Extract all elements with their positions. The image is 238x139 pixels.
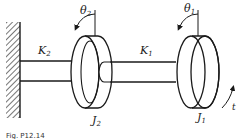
diagram-canvas: θ2 θ1 K2 K1 J2 J1 t Fig. P12.14 <box>0 0 238 139</box>
k1-label: K1 <box>139 44 153 58</box>
theta2-label: θ2 <box>80 4 92 18</box>
k2-label: K2 <box>37 44 51 58</box>
shaft-k1 <box>110 62 176 82</box>
t-label: t <box>232 102 236 112</box>
j1-label: J1 <box>195 111 206 125</box>
j2-label: J2 <box>90 114 101 128</box>
figure-caption: Fig. P12.14 <box>6 132 45 139</box>
shaft-k2 <box>20 61 72 81</box>
theta1-label: θ1 <box>184 2 195 16</box>
disk-j1 <box>177 36 219 108</box>
fixed-wall <box>6 22 20 118</box>
disk-j2 <box>71 36 112 108</box>
